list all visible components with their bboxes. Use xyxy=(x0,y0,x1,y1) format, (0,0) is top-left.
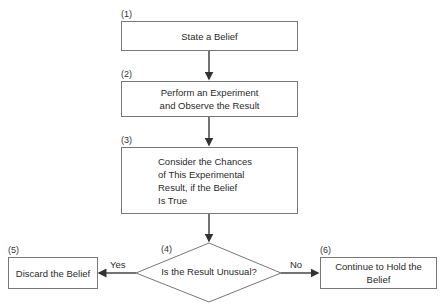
edge-label-yes: Yes xyxy=(110,259,126,270)
node-5-label: Discard the Belief xyxy=(16,267,90,280)
node-4-label: Is the Result Unusual? xyxy=(151,266,267,277)
node-6-number: (6) xyxy=(320,245,331,255)
node-3-label: Consider the Chances of This Experimenta… xyxy=(158,155,252,207)
node-6-label: Continue to Hold the Belief xyxy=(335,260,422,286)
node-continue-hold-belief: Continue to Hold the Belief xyxy=(320,257,437,289)
edge-label-no: No xyxy=(290,259,302,270)
node-2-label: Perform an Experiment and Observe the Re… xyxy=(160,86,260,112)
node-4-number: (4) xyxy=(161,244,172,254)
node-1-number: (1) xyxy=(121,9,132,19)
node-1-label: State a Belief xyxy=(181,30,238,43)
node-2-number: (2) xyxy=(121,69,132,79)
node-5-number: (5) xyxy=(8,245,19,255)
node-state-belief: State a Belief xyxy=(121,21,298,51)
node-3-number: (3) xyxy=(121,135,132,145)
node-discard-belief: Discard the Belief xyxy=(8,257,98,289)
node-perform-experiment: Perform an Experiment and Observe the Re… xyxy=(121,81,298,117)
node-consider-chances: Consider the Chances of This Experimenta… xyxy=(121,147,298,214)
